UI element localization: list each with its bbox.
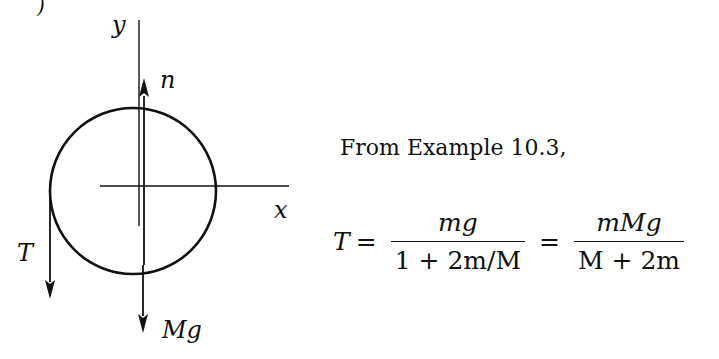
fraction-1-denominator: 1 + 2m/M <box>391 241 525 275</box>
tension-arrowhead-icon <box>45 280 55 299</box>
fraction-2-numerator: mMg <box>592 208 665 241</box>
fraction-1: mg 1 + 2m/M <box>391 208 525 275</box>
equals-sign: = <box>356 227 377 256</box>
disk-outline <box>50 108 216 274</box>
tension-label: T <box>17 241 33 265</box>
intro-text: From Example 10.3, <box>340 137 566 159</box>
free-body-diagram <box>0 0 300 359</box>
tension-equation: T = mg 1 + 2m/M = mMg M + 2m <box>333 208 692 275</box>
weight-arrowhead-icon <box>138 314 148 333</box>
normal-force-label: n <box>160 68 175 92</box>
normal-arrowhead-icon <box>139 78 149 97</box>
equation-lhs: T <box>333 227 350 256</box>
weight-label: Mg <box>162 318 202 342</box>
fraction-2-denominator: M + 2m <box>574 241 684 275</box>
fraction-2: mMg M + 2m <box>574 208 684 275</box>
fraction-1-numerator: mg <box>434 208 482 241</box>
x-axis-label: x <box>274 198 288 222</box>
equals-sign-2: = <box>539 227 560 256</box>
y-axis-label: y <box>112 13 126 37</box>
